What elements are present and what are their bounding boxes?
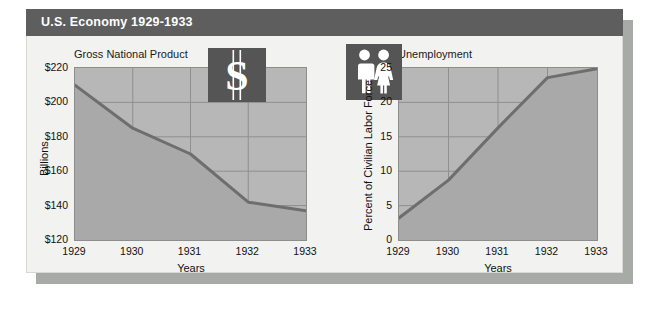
chart-title: Gross National Product [74, 48, 188, 60]
page-title: U.S. Economy 1929-1933 [41, 15, 193, 29]
x-axis-label: Years [484, 262, 512, 274]
gnp-area-plot [75, 68, 306, 240]
y-axis-tick-label: $160 [26, 164, 68, 176]
unemployment-area-plot [399, 68, 597, 240]
chart-unemployment: Unemployment Percent of Civilian Labor F… [336, 36, 623, 273]
x-axis-tick-label: 1933 [584, 245, 607, 257]
chart-title: Unemployment [398, 48, 472, 60]
dollar-sign-icon: S [208, 48, 266, 102]
y-axis-tick-label: 25 [368, 61, 392, 73]
x-axis-tick-label: 1929 [386, 245, 409, 257]
y-axis-tick-label: $200 [26, 95, 68, 107]
y-axis-tick-label: 15 [368, 130, 392, 142]
x-axis-tick-label: 1930 [436, 245, 459, 257]
y-axis-tick-label: $180 [26, 130, 68, 142]
plot-area-unemployment [398, 67, 598, 241]
x-axis-tick-label: 1931 [485, 245, 508, 257]
x-axis-tick-label: 1933 [293, 245, 316, 257]
plot-area-gnp [74, 67, 307, 241]
chart-gross-national-product: Gross National Product S Billions Years … [26, 36, 336, 273]
title-bar: U.S. Economy 1929-1933 [26, 9, 623, 36]
x-axis-tick-label: 1930 [120, 245, 143, 257]
x-axis-label: Years [177, 262, 205, 274]
y-axis-tick-label: 10 [368, 164, 392, 176]
x-axis-tick-label: 1931 [178, 245, 201, 257]
y-axis-tick-label: $140 [26, 199, 68, 211]
y-axis-tick-label: 0 [368, 233, 392, 245]
svg-text:S: S [225, 53, 248, 99]
infographic-stage: U.S. Economy 1929-1933 Gross National Pr… [0, 0, 645, 310]
y-axis-tick-label: $220 [26, 61, 68, 73]
x-axis-tick-label: 1929 [62, 245, 85, 257]
y-axis-tick-label: $120 [26, 233, 68, 245]
x-axis-tick-label: 1932 [535, 245, 558, 257]
x-axis-tick-label: 1932 [236, 245, 259, 257]
y-axis-tick-label: 5 [368, 199, 392, 211]
y-axis-tick-label: 20 [368, 95, 392, 107]
